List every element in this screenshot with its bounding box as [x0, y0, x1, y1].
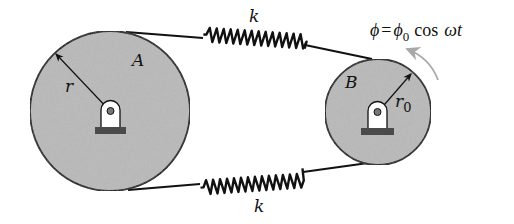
spring-bottom-label: k: [254, 196, 264, 216]
spring-bottom: k: [200, 168, 305, 216]
spring-top-label: k: [249, 6, 259, 26]
disk-a-label: A: [130, 50, 144, 70]
excitation-equation: ϕ=ϕ0cosωt: [370, 20, 463, 44]
radius-r-label: r: [65, 76, 74, 96]
spring-top: k: [203, 6, 307, 49]
disk-a: A r: [30, 31, 190, 191]
pulley-spring-diagram: A r B r0 k k ϕ=ϕ0cosωt: [0, 0, 514, 224]
disk-b: B r0: [325, 59, 431, 165]
belt-top-right: [305, 45, 372, 59]
belt-bottom-right: [303, 163, 368, 172]
disk-b-label: B: [344, 72, 358, 92]
